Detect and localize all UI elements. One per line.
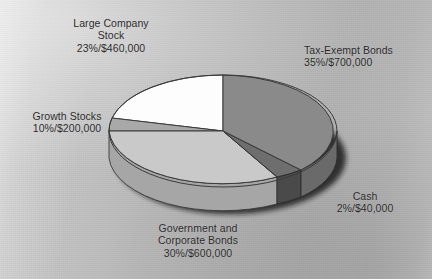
slice-label-line1: Large Company [52, 17, 170, 29]
slice-label-line1: Tax-Exempt Bonds [304, 44, 393, 56]
slice-label-tax-exempt-bonds: Tax-Exempt Bonds 35%/$700,000 [304, 44, 393, 69]
slice-label-value: 2%/$40,000 [333, 202, 397, 214]
slice-label-cash: Cash 2%/$40,000 [333, 190, 397, 215]
slice-label-growth-stocks: Growth Stocks 10%/$200,000 [14, 110, 120, 135]
slice-label-large-company-stock: Large Company Stock 23%/$460,000 [52, 17, 170, 54]
slice-label-line1: Cash [333, 190, 397, 202]
slice-label-value: 30%/$600,000 [132, 247, 264, 259]
slice-label-government-corporate-bonds: Government and Corporate Bonds 30%/$600,… [132, 222, 264, 259]
slice-label-line1: Government and [132, 222, 264, 234]
slice-label-line2: Stock [52, 29, 170, 41]
slice-label-line1: Growth Stocks [14, 110, 120, 122]
slice-label-line2: Corporate Bonds [132, 234, 264, 246]
slice-label-value: 10%/$200,000 [14, 122, 120, 134]
slice-label-value: 23%/$460,000 [52, 42, 170, 54]
slice-label-value: 35%/$700,000 [304, 56, 393, 68]
pie-chart-figure: Large Company Stock 23%/$460,000 Tax-Exe… [0, 0, 432, 279]
